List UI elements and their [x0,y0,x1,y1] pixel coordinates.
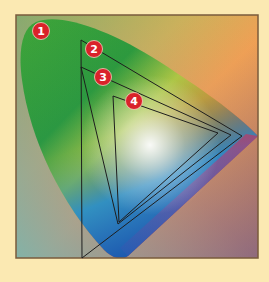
badge-4-label: 4 [130,95,138,108]
badge-4: 4 [126,93,143,110]
badge-2: 2 [86,41,103,58]
badge-3-label: 3 [99,71,107,84]
badge-1: 1 [33,23,50,40]
badge-3: 3 [95,69,112,86]
gamut-diagram: 1 2 3 4 [0,0,269,282]
badge-2-label: 2 [90,43,98,56]
badge-1-label: 1 [37,25,45,38]
